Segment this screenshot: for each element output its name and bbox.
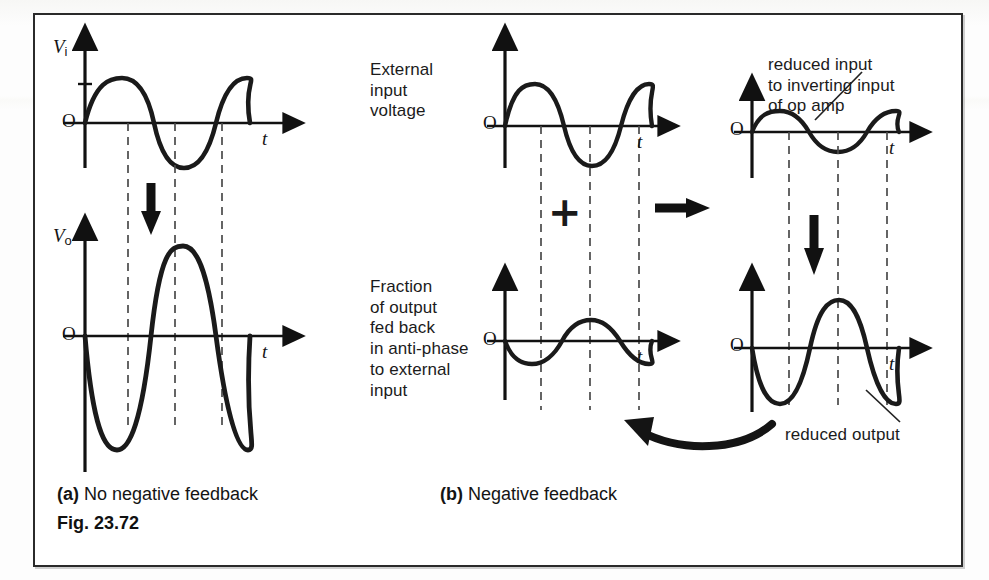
ro-t-label: t: [889, 353, 894, 375]
ro-origin-label: O: [730, 334, 744, 356]
caption-a: (a) No negative feedback: [57, 484, 258, 505]
ext-origin-label: O: [483, 112, 497, 134]
reduced-input-label: reduced input to inverting input of op a…: [768, 55, 895, 117]
vo-axis-label: Vo: [53, 225, 72, 248]
fb-t-label: t: [637, 346, 642, 368]
ext-t-label: t: [637, 131, 642, 153]
reduced-output-label: reduced output: [785, 425, 900, 446]
vi-t-label: t: [262, 128, 267, 150]
vo-origin-label: O: [62, 323, 76, 345]
vi-origin-label: O: [62, 110, 76, 132]
ri-origin-label: O: [730, 118, 744, 140]
figure-number: Fig. 23.72: [57, 513, 139, 534]
caption-a-prefix: (a): [57, 484, 79, 504]
vi-axis-label: Vi: [53, 36, 68, 59]
caption-a-text: No negative feedback: [79, 484, 258, 504]
caption-b: (b) Negative feedback: [440, 484, 617, 505]
caption-b-prefix: (b): [440, 484, 463, 504]
plus-operator: +: [548, 192, 582, 232]
fb-origin-label: O: [483, 328, 497, 350]
fed-back-label: Fraction of output fed back in anti-phas…: [370, 277, 469, 401]
figure-root: Vi O t Vo O t External input voltage Fra…: [0, 0, 989, 580]
caption-b-text: Negative feedback: [463, 484, 617, 504]
external-input-label: External input voltage: [370, 60, 433, 122]
ri-t-label: t: [889, 137, 894, 159]
vo-t-label: t: [262, 341, 267, 363]
